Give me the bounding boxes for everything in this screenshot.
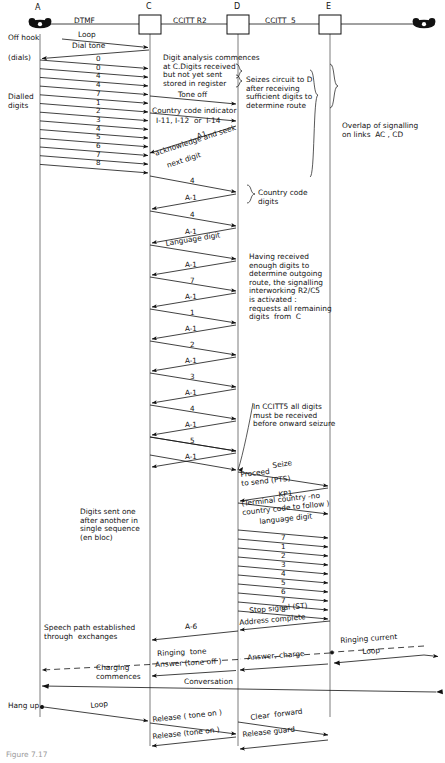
- annotation-charging-commences: Charging commences: [96, 664, 141, 681]
- annotation-overlap-signalling: Overlap of signalling on links AC , CD: [342, 122, 418, 139]
- r2-fwd-0: A-1: [185, 261, 197, 270]
- annotation-country-code-digits: Country code digits: [258, 189, 308, 206]
- signalling-sequence-diagram: A C D E DTMF CCITT R2 CCITT 5 Off hook (…: [0, 0, 445, 763]
- signal-country-code-values: I-11, I-12 or I-14: [156, 117, 220, 126]
- cc-digit-1: 4: [190, 211, 195, 220]
- r2-back-5: 5: [190, 437, 195, 446]
- node-label-E: E: [326, 3, 331, 12]
- r2-fwd-1: A-1: [185, 293, 197, 302]
- r2-back-2: 2: [190, 341, 195, 350]
- annotation-seizes-circuit: Seizes circuit to D after receiving suff…: [246, 76, 312, 110]
- r2-back-1: 1: [190, 309, 195, 318]
- r2-fwd-4: A-1: [185, 389, 197, 398]
- annotation-dialled-digits: Dialled digits: [8, 93, 34, 110]
- r2-fwd-5: A-1: [185, 421, 197, 430]
- annotation-digits-en-bloc: Digits sent one after another in single …: [80, 508, 140, 542]
- annotation-having-received: Having received enough digits to determi…: [249, 253, 332, 322]
- cc-ack-0: A-1: [185, 194, 197, 203]
- link-label-ccitt-r2: CCITT R2: [173, 17, 207, 26]
- node-label-C: C: [146, 3, 152, 12]
- signal-a6: A-6: [185, 623, 197, 632]
- annotation-speech-path: Speech path established through exchange…: [44, 624, 135, 641]
- signal-conversation: Conversation: [184, 678, 233, 687]
- r2-back-4: 4: [190, 405, 195, 414]
- r2-fwd-6: A-1: [185, 453, 197, 462]
- cc-digit-0: 4: [190, 177, 195, 186]
- annotation-dials: (dials): [8, 54, 31, 63]
- link-label-dtmf: DTMF: [74, 17, 95, 26]
- annotation-off-hook: Off hook: [8, 34, 39, 43]
- node-label-A: A: [35, 4, 40, 13]
- signal-tone-off: Tone off: [178, 91, 207, 100]
- signal-loop: Loop: [78, 31, 96, 40]
- r2-fwd-2: A-1: [185, 325, 197, 334]
- link-label-ccitt-5: CCITT 5: [265, 17, 296, 26]
- annotation-ccitt5-all-digits: In CCITT5 all digits must be received be…: [253, 403, 335, 429]
- r2-back-3: 3: [190, 373, 195, 382]
- signal-country-code-indicator: Country code indicator: [152, 107, 236, 116]
- figure-caption: Figure 7.17: [6, 751, 47, 760]
- r2-back-0: 7: [190, 277, 195, 286]
- annotation-hang-up: Hang up: [8, 702, 39, 711]
- node-label-D: D: [234, 3, 240, 12]
- signal-dial-tone: Dial tone: [72, 42, 105, 51]
- r2-fwd-3: A-1: [185, 357, 197, 366]
- signal-loop-2: Loop: [362, 647, 380, 657]
- signal-loop-3: Loop: [90, 700, 109, 710]
- digit-12: 8: [96, 159, 101, 168]
